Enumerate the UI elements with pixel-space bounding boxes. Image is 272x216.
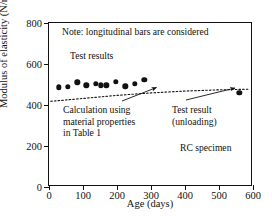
- calculation-annotation-line2: material properties: [63, 116, 135, 128]
- test-results-label: Test results: [70, 50, 113, 62]
- x-tick-label-500: 500: [211, 190, 227, 201]
- x-tick-label-300: 300: [143, 190, 159, 201]
- specimen-label: RC specimen: [180, 142, 231, 154]
- unloading-annotation-line2: (unloading): [172, 116, 217, 128]
- y-tick-label-200: 200: [26, 141, 42, 152]
- y-tick-label-600: 600: [26, 59, 42, 70]
- y-tick-label-400: 400: [26, 100, 42, 111]
- calculation-annotation: Calculation using material properties in…: [63, 104, 135, 139]
- x-tick-label-100: 100: [75, 190, 91, 201]
- chart-figure: Modulus of elasticity (N/mm2) Age (days)…: [0, 0, 272, 216]
- note-annotation: Note: longitudinal bars are considered: [62, 26, 209, 38]
- unloading-annotation-line1: Test result: [172, 104, 217, 116]
- y-tick-label-0: 0: [37, 182, 42, 193]
- x-tick-label-400: 400: [177, 190, 193, 201]
- calculation-annotation-line3: in Table 1: [63, 127, 135, 139]
- y-axis-label: Modulus of elasticity (N/mm2): [0, 0, 9, 108]
- x-tick-label-0: 0: [46, 190, 51, 201]
- x-tick-label-600: 600: [245, 190, 261, 201]
- y-tick-label-800: 800: [26, 18, 42, 29]
- x-tick-label-200: 200: [109, 190, 125, 201]
- unloading-annotation: Test result (unloading): [172, 104, 217, 127]
- calculation-annotation-line1: Calculation using: [63, 104, 135, 116]
